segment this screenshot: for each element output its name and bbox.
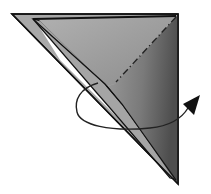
- origami-diagram: [0, 0, 211, 194]
- origami-diagram-svg: [0, 0, 211, 194]
